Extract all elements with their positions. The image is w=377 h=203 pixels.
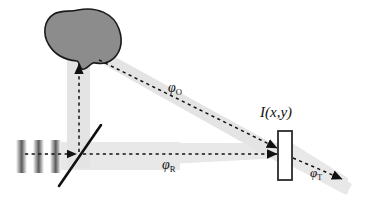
phi-subscript: O <box>176 87 182 97</box>
grating-bar <box>16 140 27 173</box>
figure-root: φO φR φT I(x,y) <box>0 0 377 203</box>
detector-plane <box>278 131 292 180</box>
phi-subscript: T <box>317 173 322 182</box>
label-object-phase: φO <box>168 81 182 95</box>
phi-symbol: φ <box>168 80 176 95</box>
diffuse-object <box>45 9 121 69</box>
label-reference-phase: φR <box>162 158 176 172</box>
phi-symbol: φ <box>162 157 170 172</box>
object-outline <box>45 9 121 69</box>
fringe-grating-source <box>16 140 61 173</box>
label-transmitted-phase: φT <box>310 166 322 179</box>
grating-bar <box>33 140 44 173</box>
phi-subscript: R <box>170 164 176 174</box>
label-intensity: I(x,y) <box>260 105 292 120</box>
grating-bar <box>50 140 61 173</box>
beam-bands <box>50 52 352 195</box>
